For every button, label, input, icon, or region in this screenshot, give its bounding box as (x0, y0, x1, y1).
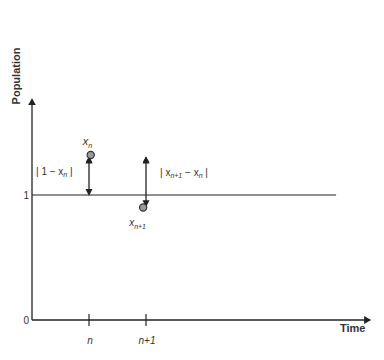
arrowhead-up (143, 157, 150, 164)
population-diagram: 01nn+1| 1 − xn || xn+1 − xn |xnxn+1 Popu… (0, 0, 384, 360)
y-tick-label: 0 (23, 315, 29, 326)
x-tick-label: n (87, 335, 93, 346)
y-tick-label: 1 (23, 190, 29, 201)
x-axis-label: Time (340, 322, 365, 334)
point-label-x_n: xn (82, 135, 93, 149)
y-axis-label: Population (10, 47, 22, 104)
x-tick-label: n+1 (139, 335, 156, 346)
annotation-label-xn1-minus-xn: | xn+1 − xn | (160, 167, 208, 179)
data-point-x_n (87, 151, 94, 158)
data-point-x_n+1 (140, 204, 147, 211)
point-label-x_n+1: xn+1 (128, 217, 146, 230)
annotation-label-1-minus-xn: | 1 − xn | (36, 166, 73, 178)
